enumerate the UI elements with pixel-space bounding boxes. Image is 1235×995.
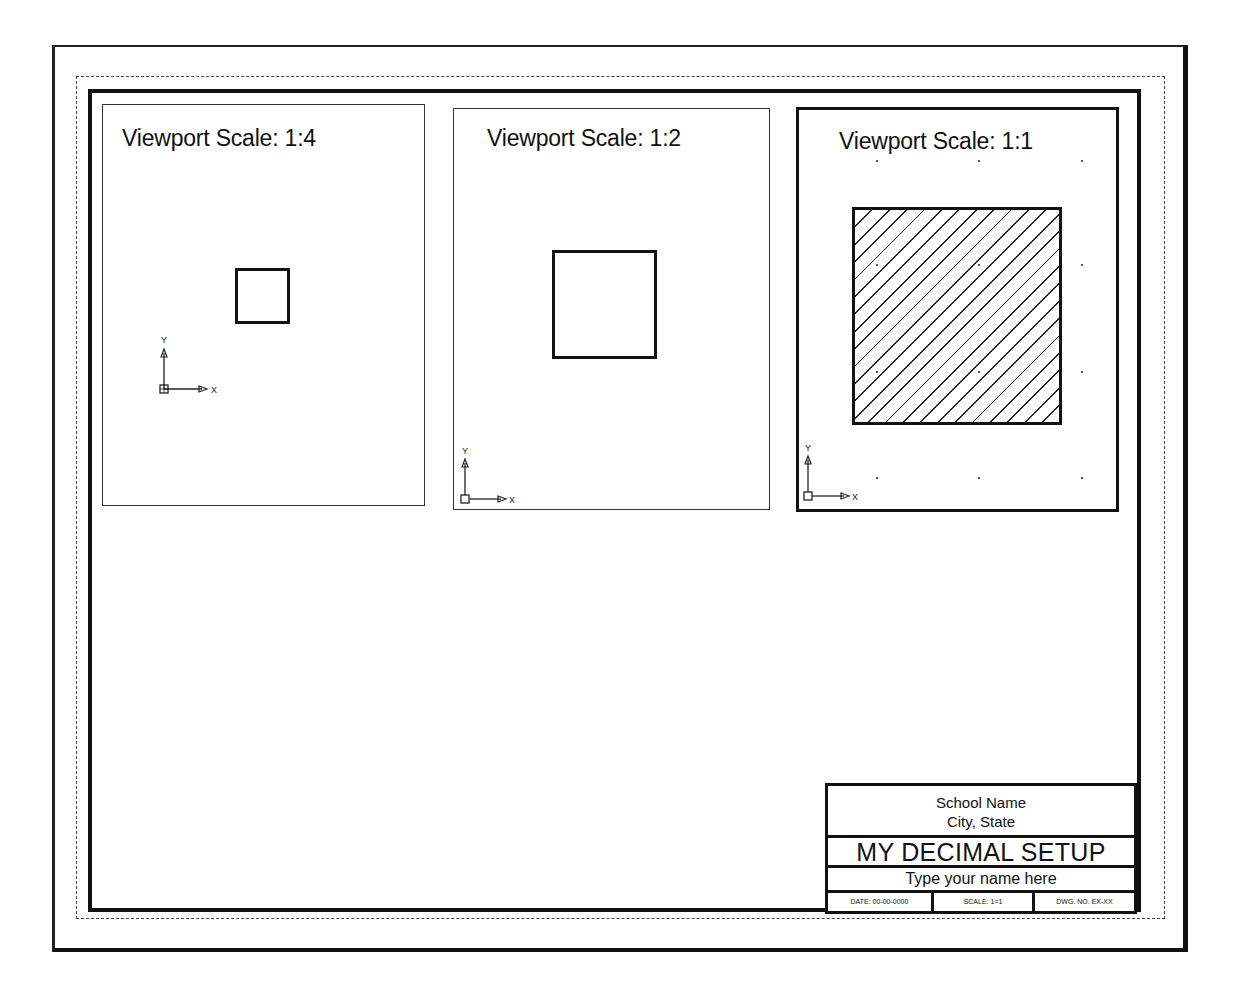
viewport-scale-1-1-active[interactable]: Viewport Scale: 1:1 Y X <box>796 107 1119 512</box>
viewport-scale-1-2[interactable]: Viewport Scale: 1:2 Y X <box>453 108 770 510</box>
viewport-title: Viewport Scale: 1:4 <box>122 125 316 152</box>
square-object[interactable] <box>552 250 657 359</box>
ucs-icon: Y X <box>800 440 870 506</box>
svg-text:Y: Y <box>462 446 468 456</box>
drawing-number-field: DWG. NO. EX-XX <box>1032 893 1134 911</box>
svg-text:X: X <box>211 385 217 395</box>
grid-dot <box>1081 160 1083 162</box>
viewport-title: Viewport Scale: 1:2 <box>487 125 681 152</box>
square-object[interactable] <box>235 268 290 324</box>
grid-dot <box>876 264 878 266</box>
grid-dot <box>1081 371 1083 373</box>
student-name-field[interactable]: Type your name here <box>828 868 1134 893</box>
grid-dot <box>978 477 980 479</box>
grid-dot <box>978 264 980 266</box>
scale-field: SCALE: 1=1 <box>931 893 1032 911</box>
grid-dot <box>1081 264 1083 266</box>
svg-text:Y: Y <box>161 335 167 345</box>
drawing-title: MY DECIMAL SETUP <box>828 838 1134 868</box>
ucs-icon: Y X <box>457 443 527 509</box>
ucs-icon: Y X <box>155 331 225 397</box>
grid-dot <box>978 371 980 373</box>
grid-dot <box>1081 477 1083 479</box>
date-field: DATE: 00-00-0000 <box>828 893 931 911</box>
school-name: School Name <box>828 793 1134 812</box>
title-block[interactable]: School Name City, State MY DECIMAL SETUP… <box>825 783 1137 914</box>
title-block-school-section: School Name City, State <box>828 786 1134 838</box>
hatched-square-object[interactable] <box>852 207 1062 425</box>
grid-dot <box>978 160 980 162</box>
city-state: City, State <box>828 812 1134 831</box>
grid-dot <box>876 371 878 373</box>
grid-dot <box>876 477 878 479</box>
svg-text:Y: Y <box>805 443 811 453</box>
grid-dot <box>876 160 878 162</box>
svg-text:X: X <box>852 492 858 502</box>
viewport-title: Viewport Scale: 1:1 <box>839 128 1033 155</box>
title-block-info-row: DATE: 00-00-0000 SCALE: 1=1 DWG. NO. EX-… <box>828 893 1134 911</box>
svg-text:X: X <box>509 495 515 505</box>
viewport-scale-1-4[interactable]: Viewport Scale: 1:4 Y X <box>102 104 425 506</box>
